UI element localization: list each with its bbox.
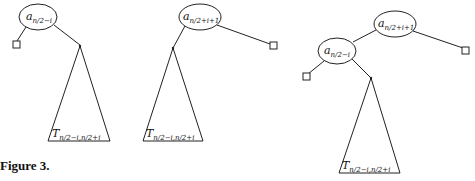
leaf-square <box>303 73 310 80</box>
edge <box>308 61 324 74</box>
leaf-square <box>13 41 20 48</box>
leaf-square <box>462 47 469 54</box>
tree-3 <box>303 11 469 173</box>
subtree-label: Tn/2−i,n/2+i <box>146 127 194 142</box>
node-label: an/2+i+1 <box>378 17 414 32</box>
node-label: an/2−i <box>26 10 52 25</box>
edge <box>413 31 463 48</box>
node-label: an/2−i <box>324 44 350 59</box>
edge <box>173 26 185 48</box>
figure-caption: Figure 3. <box>0 158 50 174</box>
edge <box>17 27 26 41</box>
edge <box>353 30 376 42</box>
edge <box>54 25 80 45</box>
tree-1 <box>13 4 110 141</box>
edge <box>352 59 371 78</box>
edge <box>217 25 270 44</box>
leaf-square <box>270 42 277 49</box>
subtree-label: Tn/2−i,n/2+i <box>52 127 100 142</box>
node-label: an/2+i+1 <box>183 10 219 25</box>
subtree-label: Tn/2−i,n/2+i <box>342 159 390 174</box>
figure-diagram: an/2−i Tn/2−i,n/2+i an/2+i+1 Tn/2−i,n/2+… <box>0 0 475 181</box>
